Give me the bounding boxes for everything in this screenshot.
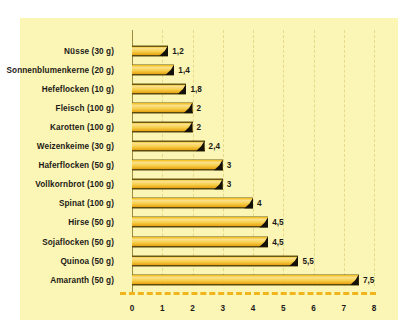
value-label: 1,4 bbox=[178, 65, 189, 74]
bar-end-cap bbox=[184, 121, 193, 132]
category-label: Nüsse (30 g) bbox=[64, 46, 114, 55]
bar-row: Amaranth (50 g)7,5 bbox=[20, 270, 398, 289]
x-tick-label: 5 bbox=[281, 304, 286, 313]
value-label: 4,5 bbox=[272, 237, 283, 246]
bar-end-cap bbox=[184, 102, 193, 113]
value-label: 4 bbox=[257, 199, 262, 208]
bar bbox=[132, 102, 193, 113]
bar-end-cap bbox=[350, 274, 359, 285]
value-label: 3 bbox=[227, 180, 232, 189]
category-label: Haferflocken (50 g) bbox=[38, 161, 114, 170]
bar-fill bbox=[132, 217, 268, 228]
bar-end-cap bbox=[259, 217, 268, 228]
value-label: 2,4 bbox=[209, 142, 220, 151]
bar bbox=[132, 83, 186, 94]
bar-end-cap bbox=[159, 45, 168, 56]
category-label: Weizenkeime (30 g) bbox=[37, 142, 114, 151]
value-label: 4,5 bbox=[272, 218, 283, 227]
bar-end-cap bbox=[165, 64, 174, 75]
bar bbox=[132, 160, 223, 171]
bar-fill bbox=[132, 141, 205, 152]
bar-row: Quinoa (50 g)5,5 bbox=[20, 251, 398, 270]
bar-row: Fleisch (100 g)2 bbox=[20, 98, 398, 117]
bar-end-cap bbox=[289, 255, 298, 266]
category-label: Sonnenblumenkerne (20 g) bbox=[7, 65, 115, 74]
value-label: 2 bbox=[197, 122, 202, 131]
x-tick-label: 3 bbox=[220, 304, 225, 313]
bar bbox=[132, 141, 205, 152]
bar-fill bbox=[132, 179, 223, 190]
bar-row: Weizenkeime (30 g)2,4 bbox=[20, 137, 398, 156]
value-label: 2 bbox=[197, 103, 202, 112]
value-label: 7,5 bbox=[363, 275, 374, 284]
bar-row: Sonnenblumenkerne (20 g)1,4 bbox=[20, 60, 398, 79]
bar-fill bbox=[132, 83, 186, 94]
value-label: 5,5 bbox=[302, 256, 313, 265]
category-label: Sojaflocken (50 g) bbox=[42, 237, 114, 246]
x-tick-label: 0 bbox=[130, 304, 135, 313]
bar-end-cap bbox=[244, 198, 253, 209]
bar-fill bbox=[132, 121, 193, 132]
chart-screenshot: Nüsse (30 g)1,2Sonnenblumenkerne (20 g)1… bbox=[0, 0, 415, 336]
x-tick-label: 8 bbox=[372, 304, 377, 313]
bar-fill bbox=[132, 45, 168, 56]
bar-row: Spinat (100 g)4 bbox=[20, 194, 398, 213]
category-label: Amaranth (50 g) bbox=[50, 275, 114, 284]
bar bbox=[132, 121, 193, 132]
category-label: Hefeflocken (10 g) bbox=[42, 84, 114, 93]
bar-end-cap bbox=[177, 83, 186, 94]
bar-row: Nüsse (30 g)1,2 bbox=[20, 41, 398, 60]
x-tick-label: 2 bbox=[190, 304, 195, 313]
bar-end-cap bbox=[214, 160, 223, 171]
bar-fill bbox=[132, 236, 268, 247]
value-label: 1,8 bbox=[190, 84, 201, 93]
x-tick-label: 6 bbox=[311, 304, 316, 313]
bar bbox=[132, 64, 174, 75]
category-label: Spinat (100 g) bbox=[59, 199, 114, 208]
bar-fill bbox=[132, 64, 174, 75]
bar bbox=[132, 274, 359, 285]
bar-fill bbox=[132, 255, 298, 266]
bar-fill bbox=[132, 198, 253, 209]
category-label: Vollkornbrot (100 g) bbox=[35, 180, 114, 189]
bar-row: Vollkornbrot (100 g)3 bbox=[20, 175, 398, 194]
bar-row: Hefeflocken (10 g)1,8 bbox=[20, 79, 398, 98]
value-label: 3 bbox=[227, 161, 232, 170]
bar bbox=[132, 45, 168, 56]
x-tick-label: 1 bbox=[160, 304, 165, 313]
category-label: Quinoa (50 g) bbox=[60, 256, 114, 265]
bar-end-cap bbox=[259, 236, 268, 247]
baseline-dashed-rule bbox=[120, 292, 376, 295]
category-label: Hirse (50 g) bbox=[68, 218, 114, 227]
bar-row: Haferflocken (50 g)3 bbox=[20, 156, 398, 175]
x-tick-label: 7 bbox=[341, 304, 346, 313]
bar-fill bbox=[132, 274, 359, 285]
bar bbox=[132, 255, 298, 266]
category-label: Fleisch (100 g) bbox=[56, 103, 114, 112]
bar-end-cap bbox=[196, 141, 205, 152]
bar bbox=[132, 198, 253, 209]
category-label: Karotten (100 g) bbox=[50, 122, 114, 131]
bar-fill bbox=[132, 160, 223, 171]
bar-fill bbox=[132, 102, 193, 113]
bar-row: Hirse (50 g)4,5 bbox=[20, 213, 398, 232]
chart-panel: Nüsse (30 g)1,2Sonnenblumenkerne (20 g)1… bbox=[20, 18, 398, 320]
bar bbox=[132, 179, 223, 190]
bar-row: Sojaflocken (50 g)4,5 bbox=[20, 232, 398, 251]
x-tick-label: 4 bbox=[251, 304, 256, 313]
value-label: 1,2 bbox=[172, 46, 183, 55]
bar bbox=[132, 236, 268, 247]
bar-end-cap bbox=[214, 179, 223, 190]
bar bbox=[132, 217, 268, 228]
bar-row: Karotten (100 g)2 bbox=[20, 117, 398, 136]
